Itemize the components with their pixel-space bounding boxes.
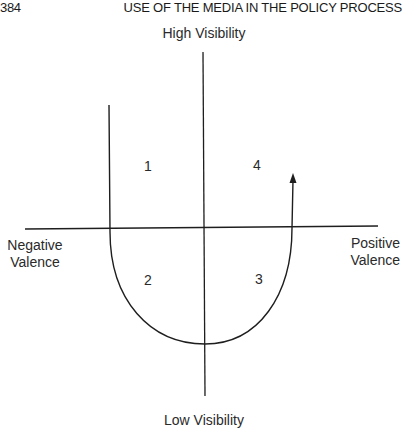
- quadrant-4-label: 4: [253, 157, 261, 173]
- quadrant-3-label: 3: [255, 271, 263, 287]
- quadrant-1-label: 1: [144, 158, 152, 174]
- low-visibility-label: Low Visibility: [0, 412, 404, 429]
- positive-valence-line1: Positive: [346, 235, 400, 252]
- positive-valence-label: Positive Valence: [346, 235, 400, 269]
- quadrant-2-label: 2: [144, 272, 152, 288]
- u-curve-path: [109, 105, 293, 344]
- horizontal-axis: [25, 226, 378, 229]
- high-visibility-label: High Visibility: [0, 25, 404, 42]
- negative-valence-label: Negative Valence: [4, 237, 66, 271]
- positive-valence-line2: Valence: [346, 252, 400, 269]
- negative-valence-line1: Negative: [4, 237, 66, 254]
- negative-valence-line2: Valence: [4, 254, 66, 271]
- arrowhead-icon: [290, 173, 297, 183]
